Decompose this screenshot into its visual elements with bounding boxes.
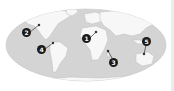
right-edge-shade — [171, 0, 174, 91]
world-map-figure: 1 2 3 4 5 — [0, 0, 174, 91]
map-marker-4: 4 — [37, 45, 46, 54]
map-marker-1: 1 — [82, 34, 91, 43]
map-marker-2: 2 — [22, 28, 31, 37]
map-marker-3: 3 — [109, 58, 118, 67]
map-marker-5: 5 — [142, 37, 151, 46]
